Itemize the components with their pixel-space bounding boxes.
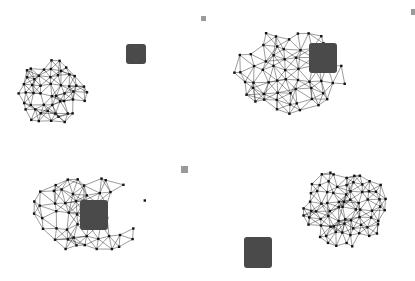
- edge: [296, 88, 312, 89]
- node: [64, 248, 66, 250]
- node: [340, 65, 342, 67]
- edge: [277, 105, 290, 110]
- node: [33, 78, 35, 80]
- edge: [61, 85, 65, 93]
- edge: [120, 229, 133, 236]
- node: [345, 242, 347, 244]
- node: [320, 35, 322, 37]
- node: [332, 173, 334, 175]
- edge: [330, 211, 339, 221]
- edge: [296, 80, 298, 89]
- node: [75, 84, 77, 86]
- node: [341, 206, 343, 208]
- node: [319, 218, 321, 220]
- edge: [289, 105, 290, 114]
- node: [310, 87, 312, 89]
- edge: [368, 200, 381, 207]
- node: [49, 76, 51, 78]
- node: [379, 205, 381, 207]
- node: [100, 177, 102, 179]
- node: [33, 212, 35, 214]
- edge: [327, 193, 333, 203]
- edge: [350, 233, 359, 235]
- edge: [62, 190, 73, 195]
- edge: [327, 202, 339, 203]
- node: [38, 120, 40, 122]
- node: [76, 223, 78, 225]
- edge: [240, 55, 254, 66]
- edge: [350, 220, 351, 235]
- node: [30, 119, 32, 121]
- edge: [240, 66, 254, 72]
- node: [96, 248, 98, 250]
- node: [63, 92, 65, 94]
- node: [26, 76, 28, 78]
- edge: [370, 181, 376, 192]
- node: [34, 108, 36, 110]
- gray-marker-square: [201, 16, 206, 21]
- edge: [372, 210, 385, 211]
- node: [310, 192, 312, 194]
- edge: [57, 228, 68, 229]
- edge: [52, 101, 64, 105]
- edge: [352, 233, 359, 246]
- node: [25, 91, 27, 93]
- collapsed-cluster: [309, 43, 337, 73]
- node: [99, 192, 101, 194]
- edge: [55, 230, 67, 240]
- node: [42, 228, 44, 230]
- edge: [84, 186, 87, 196]
- node: [335, 231, 337, 233]
- edge: [55, 185, 56, 203]
- edge: [336, 233, 342, 246]
- node: [359, 175, 361, 177]
- edge: [263, 45, 277, 47]
- node: [75, 244, 77, 246]
- node: [368, 180, 370, 182]
- edge: [274, 49, 284, 55]
- edge: [285, 69, 298, 70]
- edge: [336, 232, 337, 246]
- edge: [321, 226, 326, 237]
- edge: [234, 55, 239, 73]
- edge: [254, 66, 263, 70]
- node: [74, 75, 76, 77]
- node: [17, 92, 19, 94]
- edge: [51, 60, 52, 69]
- node: [315, 210, 317, 212]
- node: [54, 239, 56, 241]
- node: [72, 193, 74, 195]
- edge: [277, 79, 286, 80]
- node: [60, 70, 62, 72]
- node: [67, 238, 69, 240]
- edge: [311, 184, 312, 193]
- node: [276, 92, 278, 94]
- node: [297, 68, 299, 70]
- edge: [285, 70, 286, 79]
- edge: [286, 79, 298, 80]
- node: [358, 202, 360, 204]
- edge: [68, 180, 73, 194]
- node: [302, 214, 304, 216]
- edge: [234, 73, 245, 82]
- node: [319, 236, 321, 238]
- node: [307, 223, 309, 225]
- node: [297, 79, 299, 81]
- edge: [333, 193, 339, 202]
- edge: [55, 240, 66, 249]
- edge: [254, 70, 263, 83]
- edge: [289, 110, 300, 114]
- node: [252, 87, 254, 89]
- edge: [240, 72, 253, 82]
- node: [39, 190, 41, 192]
- node: [325, 235, 327, 237]
- node: [345, 177, 347, 179]
- edge: [263, 45, 273, 55]
- node: [327, 180, 329, 182]
- edge: [245, 82, 253, 83]
- mesh-network-bottom-right: [302, 172, 387, 248]
- node: [83, 184, 85, 186]
- edge: [269, 66, 274, 83]
- edge: [68, 239, 77, 245]
- edge: [54, 191, 55, 204]
